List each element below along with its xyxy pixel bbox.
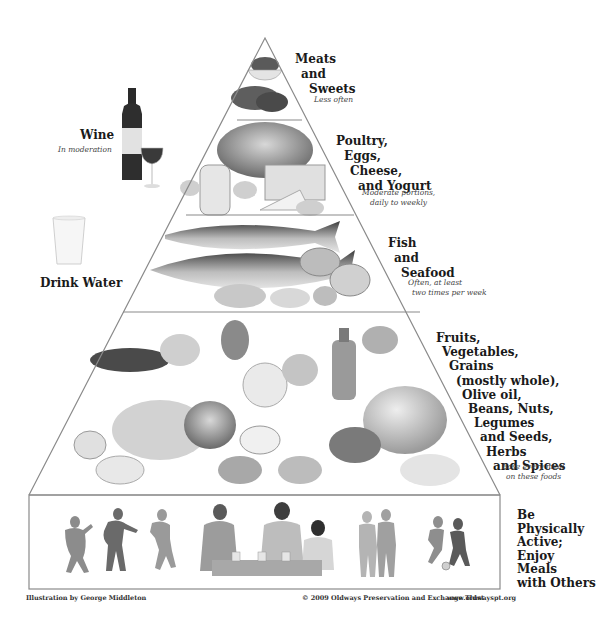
label-line: (mostly whole), bbox=[436, 374, 565, 388]
label-wine: Wine bbox=[80, 128, 114, 143]
label-line: Enjoy bbox=[517, 550, 596, 564]
note-fish-seafood: Often, at least two times per week bbox=[408, 278, 487, 298]
label-line: Herbs bbox=[436, 445, 565, 459]
label-line: Grains bbox=[436, 359, 565, 373]
label-line: Active; bbox=[517, 536, 596, 550]
label-line: Fish bbox=[388, 236, 455, 251]
label-line: Meats bbox=[295, 52, 356, 67]
label-activity: Be Physically Active; Enjoy Meals with O… bbox=[517, 509, 596, 591]
tier-fish-seafood-art bbox=[150, 221, 370, 308]
label-line: Legumes bbox=[436, 416, 565, 430]
label-line: Vegetables, bbox=[436, 345, 565, 359]
note-poultry: Moderate portions, daily to weekly bbox=[362, 188, 435, 208]
tier-plant-foods-art bbox=[74, 320, 460, 486]
label-fish-seafood: Fish and Seafood bbox=[388, 236, 455, 281]
footer-website: www.oldwayspt.org bbox=[447, 594, 516, 602]
label-line: Eggs, bbox=[336, 149, 432, 164]
label-line: Physically bbox=[517, 523, 596, 537]
note-line: on these foods bbox=[502, 472, 564, 482]
label-line: and bbox=[388, 251, 455, 266]
footer-credit: Illustration by George Middleton bbox=[26, 594, 146, 602]
label-line: Meals bbox=[517, 563, 596, 577]
tier-activity-box bbox=[29, 495, 500, 589]
label-line: Fruits, bbox=[436, 331, 565, 345]
label-line: and bbox=[295, 67, 356, 82]
label-poultry-eggs-cheese-yogurt: Poultry, Eggs, Cheese, and Yogurt bbox=[336, 134, 432, 194]
note-line: Often, at least bbox=[408, 278, 487, 288]
note-line: two times per week bbox=[408, 288, 487, 298]
note-line: Base every meal bbox=[502, 462, 564, 472]
note-line: daily to weekly bbox=[362, 198, 435, 208]
label-drink-water: Drink Water bbox=[40, 276, 122, 291]
label-line: with Others bbox=[517, 577, 596, 591]
label-line: Cheese, bbox=[336, 164, 432, 179]
note-wine: In moderation bbox=[58, 145, 112, 155]
wine-illustration bbox=[122, 88, 163, 188]
label-line: Poultry, bbox=[336, 134, 432, 149]
note-line: Moderate portions, bbox=[362, 188, 435, 198]
label-plant-foods: Fruits, Vegetables, Grains (mostly whole… bbox=[436, 331, 565, 473]
label-meats-sweets: Meats and Sweets bbox=[295, 52, 356, 97]
tier-poultry-art bbox=[180, 122, 325, 216]
label-line: Olive oil, bbox=[436, 388, 565, 402]
note-meats-sweets: Less often bbox=[314, 95, 353, 105]
water-glass-illustration bbox=[53, 216, 85, 264]
label-line: Be bbox=[517, 509, 596, 523]
label-line: and Seeds, bbox=[436, 430, 565, 444]
note-plant-foods: Base every meal on these foods bbox=[502, 462, 564, 482]
label-line: Beans, Nuts, bbox=[436, 402, 565, 416]
